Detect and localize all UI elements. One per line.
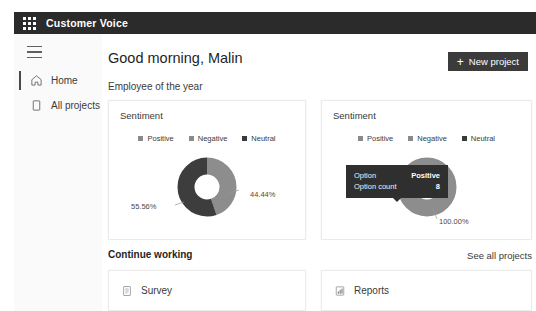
project-tile-reports-label: Reports bbox=[354, 285, 389, 296]
tooltip-row-option: Option Positive bbox=[354, 170, 440, 181]
tooltip-arrow-icon bbox=[393, 198, 401, 202]
app-launcher-icon[interactable] bbox=[23, 17, 36, 30]
chart-tooltip: Option Positive Option count 8 bbox=[346, 165, 448, 198]
donut-label-bottom: 100.00% bbox=[439, 217, 469, 226]
sidebar: Home All projects bbox=[14, 34, 103, 311]
main-content: Good morning, Malin + New project Employ… bbox=[102, 34, 536, 311]
suite-bar: Customer Voice bbox=[14, 12, 536, 34]
legend-label-positive: Positive bbox=[147, 134, 173, 143]
legend-label-positive: Positive bbox=[367, 134, 393, 143]
project-tile-survey-label: Survey bbox=[141, 285, 172, 296]
new-project-button[interactable]: + New project bbox=[448, 52, 528, 71]
sidebar-item-home[interactable]: Home bbox=[14, 68, 102, 93]
plus-icon: + bbox=[457, 56, 464, 68]
continue-working-title: Continue working bbox=[108, 249, 192, 260]
legend-item-positive[interactable]: Positive bbox=[358, 134, 393, 143]
continue-working-header: Continue working See all projects bbox=[108, 249, 532, 263]
see-all-projects-link[interactable]: See all projects bbox=[467, 250, 532, 261]
donut-label-right: 44.44% bbox=[250, 190, 275, 199]
app-root: Customer Voice Home All projects Good mo… bbox=[0, 0, 536, 311]
document-icon bbox=[30, 99, 43, 112]
legend-swatch-negative bbox=[189, 136, 194, 141]
legend-label-negative: Negative bbox=[417, 134, 447, 143]
legend-item-neutral[interactable]: Neutral bbox=[242, 134, 275, 143]
tooltip-value-option-count: 8 bbox=[436, 181, 440, 192]
new-project-label: New project bbox=[469, 56, 519, 67]
sidebar-item-all-projects[interactable]: All projects bbox=[14, 93, 102, 118]
chart-legend: Positive Negative Neutral bbox=[109, 134, 305, 143]
legend-swatch-positive bbox=[358, 136, 363, 141]
legend-item-negative[interactable]: Negative bbox=[189, 134, 228, 143]
card-title: Sentiment bbox=[120, 110, 163, 121]
tooltip-key-option: Option bbox=[354, 170, 392, 181]
home-icon bbox=[30, 74, 43, 87]
legend-swatch-neutral bbox=[462, 136, 467, 141]
legend-label-neutral: Neutral bbox=[251, 134, 275, 143]
survey-document-icon bbox=[121, 285, 133, 297]
sidebar-item-home-label: Home bbox=[51, 75, 78, 86]
tooltip-value-option: Positive bbox=[411, 170, 440, 181]
dashboard-cards: Sentiment Positive Negative Neutral bbox=[108, 100, 532, 240]
reports-document-icon bbox=[334, 285, 346, 297]
legend-item-positive[interactable]: Positive bbox=[138, 134, 173, 143]
app-title: Customer Voice bbox=[46, 17, 128, 29]
sentiment-card-right[interactable]: Sentiment Positive Negative Neutral bbox=[321, 100, 532, 240]
legend-swatch-positive bbox=[138, 136, 143, 141]
tooltip-key-option-count: Option count bbox=[354, 181, 413, 192]
donut-chart-right[interactable]: 100.00% Option Positive Option count 8 bbox=[322, 147, 531, 237]
card-title: Sentiment bbox=[333, 110, 376, 121]
hamburger-menu-icon[interactable] bbox=[27, 46, 42, 58]
legend-item-negative[interactable]: Negative bbox=[408, 134, 447, 143]
legend-item-neutral[interactable]: Neutral bbox=[462, 134, 495, 143]
sentiment-card-left[interactable]: Sentiment Positive Negative Neutral bbox=[108, 100, 306, 240]
sidebar-nav: Home All projects bbox=[14, 68, 102, 118]
sidebar-item-all-projects-label: All projects bbox=[51, 100, 100, 111]
donut-label-left: 55.56% bbox=[131, 202, 156, 211]
tooltip-row-option-count: Option count 8 bbox=[354, 181, 440, 192]
donut-svg bbox=[167, 147, 247, 227]
legend-swatch-neutral bbox=[242, 136, 247, 141]
page-title: Good morning, Malin bbox=[108, 50, 243, 66]
chart-legend: Positive Negative Neutral bbox=[322, 134, 531, 143]
project-tiles: Survey Reports bbox=[108, 270, 532, 311]
legend-label-negative: Negative bbox=[198, 134, 228, 143]
page-subtitle: Employee of the year bbox=[108, 81, 203, 92]
project-tile-survey[interactable]: Survey bbox=[108, 270, 306, 311]
donut-chart-left[interactable]: 44.44% 55.56% bbox=[109, 147, 305, 237]
project-tile-reports[interactable]: Reports bbox=[321, 270, 532, 311]
legend-swatch-negative bbox=[408, 136, 413, 141]
legend-label-neutral: Neutral bbox=[471, 134, 495, 143]
